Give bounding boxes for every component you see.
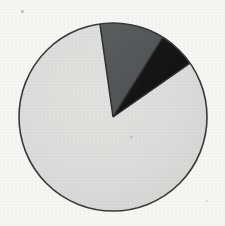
pie-chart-figure: [0, 0, 225, 226]
pie-chart-canvas: [0, 0, 225, 226]
